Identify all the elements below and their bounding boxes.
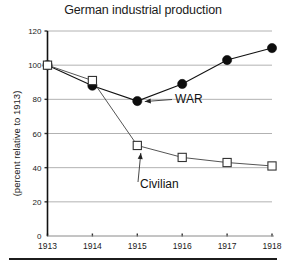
annotation-civilian-arrowhead (138, 153, 143, 159)
x-tick-label: 1914 (83, 241, 102, 251)
x-tick-label: 1917 (218, 241, 237, 251)
x-tick-label: 1916 (173, 241, 192, 251)
y-tick-label: 100 (28, 61, 42, 70)
y-axis-ticks-group: 020406080100120 (28, 27, 47, 241)
data-point-civilian (223, 158, 231, 166)
data-point-civilian (133, 141, 141, 149)
y-tick-label: 80 (33, 95, 42, 104)
plot-area: 020406080100120 191319141915191619171918… (0, 0, 286, 265)
y-tick-label: 0 (37, 232, 42, 241)
x-tick-label: 1918 (263, 241, 282, 251)
data-point-war (223, 55, 232, 64)
series-line-war (48, 48, 273, 101)
bottom-divider (9, 258, 277, 260)
y-tick-label: 120 (28, 27, 42, 36)
y-tick-label: 60 (33, 130, 42, 139)
annotations-group: WARCivilian (138, 92, 203, 191)
x-tick-label: 1915 (128, 241, 147, 251)
series-lines-group (48, 48, 273, 166)
x-tick-label: 1913 (38, 241, 57, 251)
annotation-label-war: WAR (175, 92, 203, 106)
data-point-civilian (88, 76, 96, 84)
y-tick-label: 40 (33, 164, 42, 173)
y-tick-label: 20 (33, 198, 42, 207)
data-point-civilian (43, 61, 51, 69)
chart-figure: German industrial production (percent re… (0, 0, 286, 265)
data-point-war (133, 96, 142, 105)
data-point-civilian (268, 162, 276, 170)
annotation-label-civilian: Civilian (140, 177, 179, 191)
data-point-civilian (178, 153, 186, 161)
data-point-war (267, 43, 276, 52)
data-point-war (178, 79, 187, 88)
